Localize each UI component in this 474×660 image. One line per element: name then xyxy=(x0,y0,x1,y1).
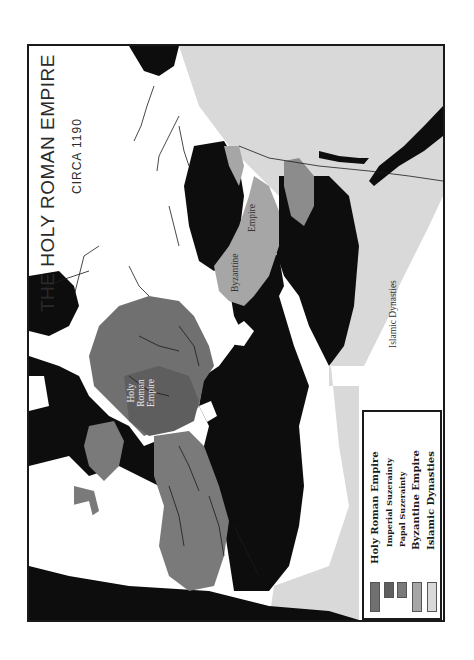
legend-label-imperial: Imperial Suzerainty xyxy=(384,458,394,547)
byzantine-region-label-2: Empire xyxy=(247,204,257,232)
islamic-region-label: Islamic Dynasties xyxy=(388,280,398,348)
legend-swatch-hre xyxy=(370,582,380,612)
legend-label-papal: Papal Suzerainty xyxy=(397,472,407,547)
legend-swatch-imperial xyxy=(384,582,394,598)
map-title: THE HOLY ROMAN EMPIRE xyxy=(37,54,59,312)
hre-region-label: Holy Roman Empire xyxy=(126,379,156,407)
legend-label-islamic: Islamic Dynasties xyxy=(425,451,436,550)
map-frame: Holy Roman Empire Byzantine Empire Islam… xyxy=(27,44,445,622)
map-legend: Holy Roman Empire Imperial Suzerainty Pa… xyxy=(362,410,442,620)
legend-swatch-islamic xyxy=(427,582,437,612)
map-subtitle: CIRCA 1190 xyxy=(70,118,84,194)
byzantine-region-label-1: Byzantine xyxy=(230,253,240,292)
legend-swatch-papal xyxy=(397,582,407,598)
legend-label-hre: Holy Roman Empire xyxy=(369,451,380,564)
hre-label-line-1: Holy xyxy=(126,379,136,407)
hre-label-line-3: Empire xyxy=(146,379,156,407)
legend-swatch-byzantine xyxy=(412,582,422,612)
hre-label-line-2: Roman xyxy=(136,379,146,407)
legend-label-byzantine: Byzantine Empire xyxy=(410,450,421,550)
